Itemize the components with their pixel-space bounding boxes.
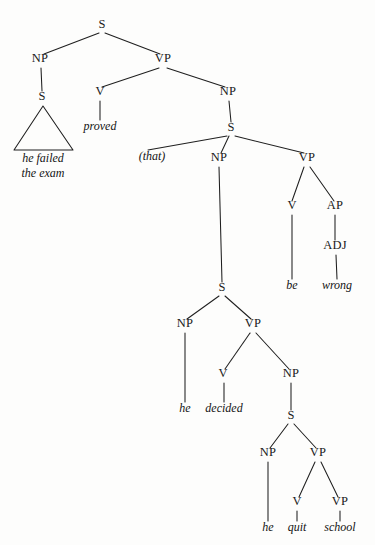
tree-branch xyxy=(235,136,304,153)
terminal-word: he xyxy=(262,520,274,534)
node-label-s: S xyxy=(98,17,105,31)
tree-branch xyxy=(229,101,231,122)
tree-branch xyxy=(167,68,225,87)
node-label-s: S xyxy=(227,120,234,134)
node-label-v: V xyxy=(95,84,104,98)
terminal-word: quit xyxy=(288,520,307,534)
node-label-s: S xyxy=(218,280,225,294)
tree-branch xyxy=(105,33,160,54)
terminal-word: be xyxy=(286,278,298,292)
terminal-word: he xyxy=(179,401,191,415)
terminal-word: school xyxy=(324,520,356,534)
node-label-v: V xyxy=(287,198,296,212)
tree-branch xyxy=(219,167,222,282)
terminal-word: wrong xyxy=(322,278,352,292)
terminal-word: (that) xyxy=(139,149,166,163)
triangle-word-line: he failed xyxy=(22,151,65,165)
node-label-np: NP xyxy=(211,150,227,164)
node-label-vp: VP xyxy=(245,316,261,330)
node-label-np: NP xyxy=(32,51,48,65)
node-label-vp: VP xyxy=(299,150,315,164)
tree-branch xyxy=(336,255,337,279)
node-label-v: V xyxy=(218,366,227,380)
constituent-triangle xyxy=(14,106,73,150)
node-label-vp: VP xyxy=(155,51,171,65)
node-label-vp: VP xyxy=(310,445,326,459)
triangle-words: he failedthe exam xyxy=(22,151,65,180)
triangle-word-line: the exam xyxy=(22,166,65,180)
tree-branch xyxy=(102,68,159,87)
node-label-v: V xyxy=(292,494,301,508)
tree-canvas: SNPSVPVNPSNPVPVAPADJSNPVPVNPSNPVPVVP (th… xyxy=(0,0,375,545)
tree-branch xyxy=(299,462,315,497)
node-label-np: NP xyxy=(260,445,276,459)
tree-branch xyxy=(256,333,289,369)
node-label-np: NP xyxy=(220,84,236,98)
tree-branch xyxy=(41,68,42,91)
node-label-np: NP xyxy=(177,316,193,330)
tree-branch xyxy=(148,136,227,150)
node-label-np: NP xyxy=(283,366,299,380)
tree-branch xyxy=(321,462,338,497)
node-labels: SNPSVPVNPSNPVPVAPADJSNPVPVNPSNPVPVVP xyxy=(32,17,348,508)
node-label-s: S xyxy=(38,89,45,103)
tree-branch xyxy=(292,167,304,201)
syntax-tree-figure: SNPSVPVNPSNPVPVAPADJSNPVPVNPSNPVPVVP (th… xyxy=(0,0,375,545)
node-label-ap: AP xyxy=(327,198,343,212)
tree-branch xyxy=(310,167,334,201)
tree-branch xyxy=(44,33,99,54)
terminal-word: proved xyxy=(83,119,118,133)
node-label-s: S xyxy=(287,408,294,422)
terminal-word: decided xyxy=(205,401,243,415)
node-label-adj: ADJ xyxy=(323,238,347,252)
tree-branch xyxy=(225,333,250,369)
triangle-icon xyxy=(14,106,73,150)
node-label-vp: VP xyxy=(332,494,348,508)
branch-lines xyxy=(41,33,340,521)
